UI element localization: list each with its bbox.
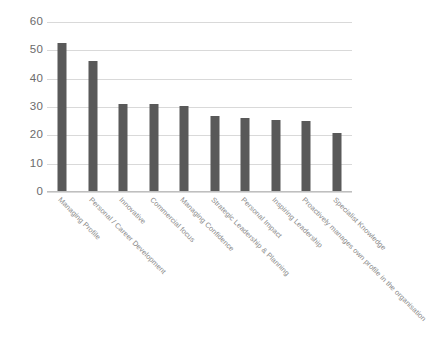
x-axis-category-label: Managing Confidence <box>179 196 236 253</box>
x-axis-category-label: Proactively manages own profile in the o… <box>301 196 428 323</box>
x-label-slot: Personal / Career Development <box>78 194 109 195</box>
bar-slot <box>230 22 261 192</box>
x-label-slot: Managing Profile <box>47 194 78 195</box>
y-axis-tick-label: 60 <box>3 16 43 28</box>
x-label-slot: Specialist Knowledge <box>322 194 353 195</box>
bar <box>271 120 280 192</box>
bar-slot <box>139 22 170 192</box>
gridline-0 <box>47 192 352 193</box>
x-label-slot: Managing Confidence <box>169 194 200 195</box>
y-axis: 0102030405060 <box>0 22 43 192</box>
bar-slot <box>322 22 353 192</box>
bar <box>58 43 67 192</box>
bar-slot <box>78 22 109 192</box>
y-axis-tick-label: 50 <box>3 45 43 57</box>
x-label-slot: Proactively manages own profile in the o… <box>291 194 322 195</box>
x-axis-category-label: Innovative <box>118 196 147 225</box>
plot-area <box>47 22 352 192</box>
bar-slot <box>261 22 292 192</box>
bar <box>302 121 311 192</box>
x-label-slot: Innovative <box>108 194 139 195</box>
x-label-slot: Commercial focus <box>139 194 170 195</box>
x-axis-category-label: Specialist Knowledge <box>332 196 388 252</box>
bar-slot <box>200 22 231 192</box>
bar <box>180 106 189 192</box>
y-axis-tick-label: 40 <box>3 73 43 85</box>
y-axis-tick-label: 30 <box>3 101 43 113</box>
x-axis-line <box>47 191 352 192</box>
y-axis-tick-label: 20 <box>3 130 43 142</box>
bar <box>88 61 97 192</box>
bar <box>149 104 158 192</box>
bar-slot <box>291 22 322 192</box>
x-label-slot: Personal Impact <box>230 194 261 195</box>
bar <box>210 116 219 193</box>
bar-slot <box>169 22 200 192</box>
bar <box>119 104 128 192</box>
bar-slot <box>108 22 139 192</box>
bar <box>241 118 250 192</box>
x-axis-category-labels: Managing ProfilePersonal / Career Develo… <box>47 194 352 352</box>
bar <box>332 133 341 192</box>
y-axis-tick-label: 10 <box>3 158 43 170</box>
x-label-slot: Inspiring Leadership <box>261 194 292 195</box>
y-axis-tick-label: 0 <box>3 186 43 198</box>
x-label-slot: Strategic Leadership & Planning <box>200 194 231 195</box>
bar-slot <box>47 22 78 192</box>
